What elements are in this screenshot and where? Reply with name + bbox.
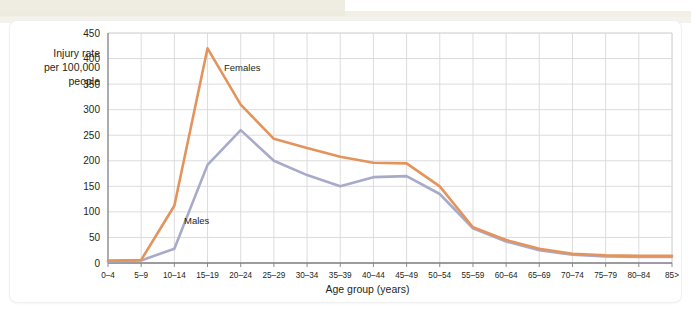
x-tick-label: 80–84 xyxy=(627,271,650,280)
y-tick-labels: 050100150200250300350400450 xyxy=(83,28,100,269)
x-axis-title-text: Age group (years) xyxy=(325,283,409,295)
y-tick-label: 400 xyxy=(83,53,100,64)
x-tick-label: 0–4 xyxy=(101,271,115,280)
x-tick-label: 70–74 xyxy=(561,271,584,280)
x-tick-label: 50–54 xyxy=(428,271,451,280)
series-line-males xyxy=(108,130,672,261)
x-tick-label: 60–64 xyxy=(495,271,518,280)
y-tick-label: 300 xyxy=(83,104,100,115)
x-tick-label: 10–14 xyxy=(163,271,186,280)
x-tick-label: 85> xyxy=(665,271,679,280)
x-tick-label: 45–49 xyxy=(395,271,418,280)
x-tick-label: 40–44 xyxy=(362,271,385,280)
x-tick-label: 75–79 xyxy=(594,271,617,280)
x-tick-label: 5–9 xyxy=(134,271,148,280)
series-label-females: Females xyxy=(224,62,260,73)
x-tick-label: 35–39 xyxy=(329,271,352,280)
x-tick-label: 25–29 xyxy=(262,271,285,280)
series-lines xyxy=(108,48,672,261)
x-tick-label: 65–69 xyxy=(528,271,551,280)
axis-lines xyxy=(108,33,672,263)
y-tick-label: 200 xyxy=(83,155,100,166)
figure-root: Injury rate per 100,000 people 050100150… xyxy=(0,0,691,312)
x-tick-label: 30–34 xyxy=(296,271,319,280)
y-tick-label: 0 xyxy=(94,258,100,269)
y-tick-label: 450 xyxy=(83,28,100,39)
x-axis-title: Age group (years) xyxy=(0,283,691,295)
line-chart: Injury rate per 100,000 people 050100150… xyxy=(0,0,691,312)
y-tick-label: 250 xyxy=(83,130,100,141)
series-line-females xyxy=(108,48,672,260)
y-tick-label: 150 xyxy=(83,181,100,192)
y-tick-label: 50 xyxy=(89,232,101,243)
y-tick-label: 100 xyxy=(83,206,100,217)
x-tick-labels: 0–45–910–1415–1920–2425–2930–3435–3940–4… xyxy=(101,271,679,280)
y-tick-label: 350 xyxy=(83,79,100,90)
grid-lines xyxy=(108,33,672,267)
series-label-males: Males xyxy=(184,215,209,226)
x-tick-label: 20–24 xyxy=(229,271,252,280)
chart-canvas: 050100150200250300350400450 0–45–910–141… xyxy=(0,0,691,312)
x-tick-label: 15–19 xyxy=(196,271,219,280)
x-tick-label: 55–59 xyxy=(462,271,485,280)
